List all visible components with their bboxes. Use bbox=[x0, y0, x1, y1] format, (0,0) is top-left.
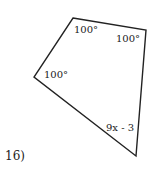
angle-label-top-right: 100° bbox=[116, 33, 140, 44]
problem-number: 16) bbox=[5, 149, 25, 163]
angle-label-left: 100° bbox=[44, 69, 68, 80]
angle-label-bottom-right: 9x - 3 bbox=[106, 122, 134, 133]
angle-label-top-left: 100° bbox=[74, 24, 98, 35]
quadrilateral-diagram: 100° 100° 100° 9x - 3 16) bbox=[0, 0, 154, 170]
